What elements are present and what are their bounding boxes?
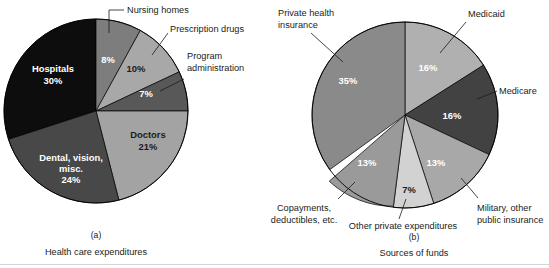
slice-label-private-health-pct: 35% bbox=[339, 75, 358, 86]
annotation-military-line2: public insurance bbox=[477, 215, 543, 225]
annotation-medicare: Medicare bbox=[499, 86, 537, 96]
annotation-program-administration-line1: Program bbox=[187, 51, 223, 61]
slice-label-prescription-drugs-pct: 10% bbox=[127, 63, 146, 74]
slice-label-military-pct: 13% bbox=[427, 157, 446, 168]
slice-label-copayments-pct: 13% bbox=[358, 157, 377, 168]
slice-label-other-private-pct: 7% bbox=[402, 184, 416, 195]
slice-label-nursing-homes-pct: 8% bbox=[101, 54, 115, 65]
slice-label-hospitals-pct: 30% bbox=[44, 75, 63, 86]
annotation-copayments-line1: Copayments, bbox=[277, 203, 331, 213]
slice-label-doctors-name: Doctors bbox=[130, 129, 165, 140]
annotation-program-administration-line2: administration bbox=[187, 63, 244, 73]
annotation-private-health-line1: Private health bbox=[278, 8, 334, 18]
pie-chart-figure: 8% 10% 7% Hospitals 30% Doctors 21% Dent… bbox=[0, 0, 549, 268]
panel-b-title: Sources of funds bbox=[380, 248, 449, 258]
slice-label-doctors-pct: 21% bbox=[139, 141, 158, 152]
panel-b-letter: (b) bbox=[409, 232, 420, 242]
slice-label-program-administration-pct: 7% bbox=[139, 88, 153, 99]
slice-label-dental-pct: 24% bbox=[62, 174, 81, 185]
annotation-private-health-line2: insurance bbox=[278, 20, 318, 30]
slice-label-medicare-pct: 16% bbox=[443, 110, 462, 121]
slice-label-medicaid-pct: 16% bbox=[419, 62, 438, 73]
annotation-copayments-line2: deductibles, etc. bbox=[271, 215, 337, 225]
annotation-military-line1: Military, other bbox=[477, 203, 531, 213]
annotation-prescription-drugs: Prescription drugs bbox=[170, 24, 244, 34]
annotation-other-private: Other private expenditures bbox=[349, 221, 458, 231]
annotation-medicaid: Medicaid bbox=[468, 9, 505, 19]
slice-label-dental-line2: misc. bbox=[59, 163, 83, 174]
slice-label-dental-line1: Dental, vision, bbox=[39, 152, 103, 163]
slice-label-hospitals-name: Hospitals bbox=[32, 63, 74, 74]
panel-a-title: Health care expenditures bbox=[45, 247, 148, 257]
panel-a-letter: (a) bbox=[91, 230, 102, 240]
annotation-nursing-homes: Nursing homes bbox=[127, 5, 189, 15]
